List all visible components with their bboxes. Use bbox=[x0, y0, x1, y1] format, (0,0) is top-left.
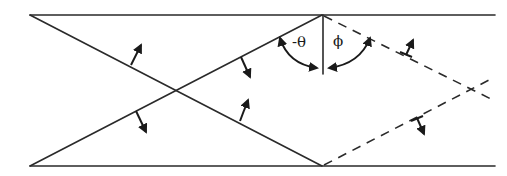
wavefront-arrow-icon bbox=[131, 45, 141, 65]
reflected-angle-label: ϕ bbox=[333, 32, 343, 50]
wavefront-arrow-icon bbox=[406, 40, 413, 55]
waveguide-ray-diagram: -θ ϕ bbox=[0, 0, 507, 176]
reflected-ray-dashed-up bbox=[324, 78, 493, 165]
wavefront-arrow-icon bbox=[241, 57, 250, 77]
incident-angle-label: -θ bbox=[292, 33, 306, 51]
wavefront-arrow-icon bbox=[240, 100, 248, 121]
wavefront-arrow-icon bbox=[417, 118, 424, 134]
wavefront-arrow-icon bbox=[136, 111, 146, 132]
reflected-ray-dashed-down bbox=[324, 16, 495, 101]
